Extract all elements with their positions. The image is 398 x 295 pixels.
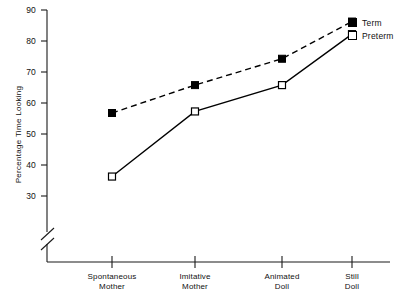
x-tick-label-line1: Spontaneous bbox=[67, 272, 157, 282]
x-tick-label-line1: Still bbox=[307, 272, 397, 282]
y-tick-label-90: 90 bbox=[14, 5, 36, 15]
series-markers-preterm bbox=[109, 31, 356, 180]
x-tick-label-spontaneous-mother: Spontaneous Mother bbox=[67, 272, 157, 292]
x-tick-label-line2: Doll bbox=[307, 282, 397, 292]
y-tick-label-50: 50 bbox=[14, 129, 36, 139]
legend-marker-filled-square-icon bbox=[348, 18, 357, 27]
legend-entry-preterm: Preterm bbox=[348, 30, 394, 41]
x-tick-label-line2: Mother bbox=[150, 282, 240, 292]
legend-marker-open-square-icon bbox=[348, 31, 357, 40]
legend-label-preterm: Preterm bbox=[362, 30, 394, 40]
legend-entry-term: Term bbox=[348, 17, 382, 28]
x-tick-label-line1: Imitative bbox=[150, 272, 240, 282]
y-tick-marks bbox=[41, 10, 47, 196]
x-tick-label-imitative-mother: Imitative Mother bbox=[150, 272, 240, 292]
y-tick-label-60: 60 bbox=[14, 98, 36, 108]
chart-plot-area bbox=[0, 0, 398, 295]
x-tick-label-line2: Mother bbox=[67, 282, 157, 292]
y-tick-label-70: 70 bbox=[14, 67, 36, 77]
series-line-term bbox=[112, 22, 352, 113]
chart-figure: Percentage Time Looking 90 80 70 60 50 4… bbox=[0, 0, 398, 295]
legend-label-term: Term bbox=[362, 18, 382, 28]
y-tick-label-80: 80 bbox=[14, 36, 36, 46]
y-tick-label-40: 40 bbox=[14, 160, 36, 170]
y-tick-label-30: 30 bbox=[14, 191, 36, 201]
series-line-preterm bbox=[112, 34, 352, 176]
x-tick-label-still-doll: Still Doll bbox=[307, 272, 397, 292]
